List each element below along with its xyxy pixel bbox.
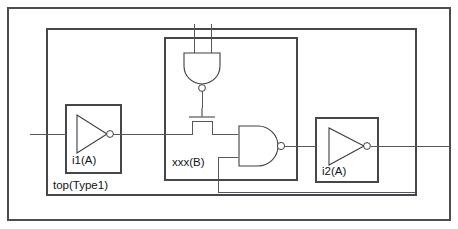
net-nmos-channel [179, 121, 238, 134]
nand-gate-upper[interactable] [184, 53, 220, 91]
label-top: top(Type1) [53, 179, 108, 191]
inverter-i2-triangle [329, 128, 364, 165]
inverter-i1[interactable] [77, 115, 113, 153]
nand-gate-upper-bubble [199, 85, 206, 92]
inverter-i2[interactable] [329, 128, 370, 165]
nand-gate-right-body [239, 126, 278, 166]
inverter-i1-triangle [77, 115, 107, 153]
schematic-drawing: i1(A) xxx(B) i2(A) top(Type1) [0, 0, 458, 229]
inverter-i1-bubble [107, 131, 114, 138]
schematic-canvas: i1(A) xxx(B) i2(A) top(Type1) [0, 0, 458, 229]
block-top-type1[interactable] [47, 29, 416, 195]
label-i2: i2(A) [322, 165, 346, 177]
label-xxx: xxx(B) [172, 156, 205, 168]
nmos-transistor[interactable] [189, 108, 215, 117]
nand-gate-right-bubble [277, 142, 284, 149]
label-i1: i1(A) [72, 154, 96, 166]
nand-gate-right[interactable] [239, 126, 285, 166]
inverter-i2-bubble [364, 143, 371, 150]
nand-gate-upper-body [184, 53, 220, 84]
net-wires [30, 24, 450, 192]
